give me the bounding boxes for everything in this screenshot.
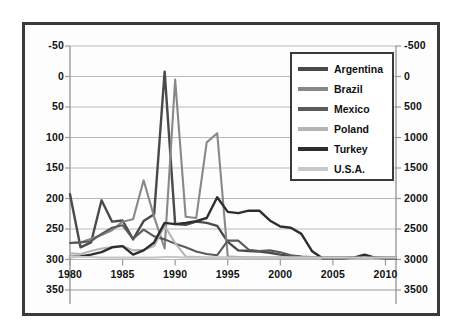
legend-item-label: Argentina [334, 63, 383, 75]
legend-item-label: U.S.A. [334, 163, 365, 175]
x-axis-label: 2000 [257, 268, 303, 280]
y-axis-label: 300 [24, 253, 64, 265]
y2-axis-label: 1000 [404, 131, 450, 143]
y2-axis-label: 3000 [404, 253, 450, 265]
x-axis-label: 1990 [152, 268, 198, 280]
y2-axis-label: 2000 [404, 192, 450, 204]
legend-item-label: Brazil [334, 83, 363, 95]
legend-swatch-line-icon [298, 87, 328, 90]
legend-item-label: Turkey [334, 143, 368, 155]
legend-item[interactable]: Poland [292, 119, 392, 139]
y2-axis-label: 2500 [404, 222, 450, 234]
y-axis-label: -50 [24, 39, 64, 51]
series-line-turkey [70, 197, 396, 258]
y2-axis-label: 1500 [404, 161, 450, 173]
x-axis-label: 1985 [100, 268, 146, 280]
legend-item[interactable]: Turkey [292, 139, 392, 159]
legend-item[interactable]: Mexico [292, 99, 392, 119]
chart-legend: ArgentinaBrazilMexicoPolandTurkeyU.S.A. [290, 52, 394, 181]
series-line-poland [70, 226, 396, 258]
legend-swatch-line-icon [298, 127, 328, 130]
x-axis-label: 1995 [205, 268, 251, 280]
legend-item[interactable]: U.S.A. [292, 159, 392, 179]
y2-axis-label: 500 [404, 100, 450, 112]
x-axis-label: 2005 [310, 268, 356, 280]
legend-swatch-line-icon [298, 147, 328, 150]
legend-swatch-line-icon [298, 67, 328, 70]
y-axis-label: 0 [24, 70, 64, 82]
y-axis-label: 350 [24, 283, 64, 295]
y2-axis-label: 3500 [404, 283, 450, 295]
legend-item-label: Poland [334, 123, 369, 135]
y-axis-label: 100 [24, 131, 64, 143]
y-axis-label: 50 [24, 100, 64, 112]
y-axis-label: 250 [24, 222, 64, 234]
series-line-usa [70, 257, 396, 258]
y-axis-label: 200 [24, 192, 64, 204]
legend-item-label: Mexico [334, 103, 370, 115]
legend-swatch-line-icon [298, 167, 328, 170]
y-axis-label: 150 [24, 161, 64, 173]
line-chart-canvas [0, 0, 466, 336]
series-line-mexico [70, 225, 396, 257]
y2-axis-label: 0 [404, 70, 450, 82]
x-axis-label: 1980 [47, 268, 93, 280]
x-axis-label: 2010 [362, 268, 408, 280]
y2-axis-label: -500 [404, 39, 450, 51]
legend-item[interactable]: Argentina [292, 59, 392, 79]
legend-swatch-line-icon [298, 107, 328, 110]
legend-item[interactable]: Brazil [292, 79, 392, 99]
